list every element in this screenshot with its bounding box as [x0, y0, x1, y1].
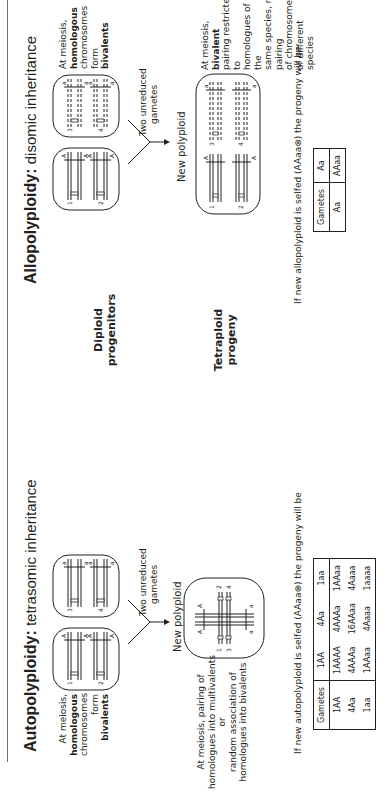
- svg-text:A: A: [108, 633, 115, 638]
- note-text: form: [90, 48, 100, 69]
- svg-text:4: 4: [225, 585, 232, 589]
- table-cell: 1aa: [360, 680, 376, 729]
- note-line-bold: homologous: [69, 3, 80, 69]
- svg-text:4: 4: [97, 608, 104, 612]
- auto-new-polyploid-label: New polyploid: [172, 581, 183, 652]
- allo-new-polyploid-label: New polyploid: [176, 111, 187, 182]
- svg-text:a: a: [60, 81, 67, 85]
- allo-parent-cell-aa: 34 aa aa: [53, 75, 119, 137]
- note-line: chromosomes: [79, 3, 90, 69]
- table-header-cell: Gametes: [314, 680, 330, 729]
- svg-text:3: 3: [66, 128, 73, 132]
- allo-gametes-label: Two unreduced gametes: [138, 68, 159, 136]
- allopolyploidy-title-rest: disomic inheritance: [22, 36, 39, 164]
- svg-text:a: a: [202, 84, 209, 88]
- table-cell: 4AAAa: [345, 640, 360, 680]
- table-cell: 4Aaaa: [360, 597, 376, 640]
- gametes-line: Two unreduced: [138, 68, 149, 136]
- allo-parent-cell-AA: 12 AA AA: [53, 148, 119, 210]
- svg-text:A: A: [60, 633, 67, 638]
- table-cell: 4Aa: [345, 680, 360, 729]
- allopolyploidy-parent-note: At meiosis, homologous chromosomes form …: [58, 3, 111, 69]
- svg-text:a: a: [108, 81, 115, 85]
- svg-text:A: A: [196, 629, 203, 634]
- note-line: pairing restricted to: [221, 0, 242, 70]
- table-header-cell: 1AA: [314, 640, 330, 680]
- label-line: progenitors: [105, 290, 118, 370]
- note-line: At meiosis, pairing of: [196, 652, 207, 792]
- parent-cell-AA: 1 2 AA AA: [53, 628, 119, 690]
- table-row: 4Aa 4AAAa 16AAaa 4Aaaa: [345, 559, 360, 730]
- svg-text:A: A: [60, 153, 67, 158]
- note-bold: bivalents: [100, 22, 110, 69]
- gametes-line: Two unreduced: [138, 548, 149, 616]
- table-cell: 1aaaa: [360, 559, 376, 598]
- svg-text:a: a: [86, 81, 93, 85]
- table-header-row: Gametes 1AA 4Aa 1aa: [314, 559, 330, 730]
- table-cell: 1AAAA: [330, 640, 346, 680]
- svg-text:1: 1: [66, 681, 73, 685]
- svg-text:A: A: [108, 153, 115, 158]
- table-row: 1AA 1AAAA 4AAAa 1AAaa: [330, 559, 346, 730]
- svg-text:1: 1: [66, 201, 73, 205]
- table-header-row: Gametes Aa: [314, 148, 330, 231]
- svg-text:1: 1: [208, 205, 215, 209]
- tetraploid-progeny-label: Tetraploid progeny: [212, 300, 238, 380]
- svg-text:A: A: [250, 155, 257, 160]
- svg-text:a: a: [108, 561, 115, 565]
- svg-text:A: A: [86, 153, 93, 158]
- table-cell: 16AAaa: [345, 597, 360, 640]
- parent-cell-aa: 3 4 aa aa: [53, 555, 119, 617]
- svg-text:4: 4: [97, 128, 104, 132]
- svg-text:A: A: [196, 603, 203, 608]
- autopolyploidy-offspring-note: At meiosis, pairing of homologues into m…: [196, 652, 249, 792]
- label-line: Tetraploid: [212, 300, 225, 380]
- table-cell: Aa: [330, 182, 346, 231]
- note-text: At meiosis,: [200, 21, 210, 70]
- svg-text:2: 2: [97, 201, 104, 205]
- svg-text:4: 4: [237, 142, 244, 146]
- table-cell: 1AAaa: [330, 559, 346, 598]
- autopolyploid-offspring-cell: AA aa 13 24: [184, 578, 264, 658]
- note-line: At meiosis,: [58, 3, 69, 69]
- autopolyploidy-selfing-caption: If new autopolyploid is selfed (AAaa⊗) t…: [293, 492, 303, 754]
- svg-text:a: a: [247, 604, 254, 608]
- svg-text:2: 2: [97, 681, 104, 685]
- svg-text:3: 3: [208, 142, 215, 146]
- label-line: progeny: [225, 300, 238, 380]
- allopolyploidy-punnett-table: Gametes Aa Aa AAaa: [313, 148, 346, 232]
- svg-text:A: A: [202, 155, 209, 160]
- gametes-line: gametes: [149, 68, 160, 136]
- table-cell: 4AAAa: [330, 597, 346, 640]
- label-line: Diploid: [92, 290, 105, 370]
- table-header-cell: 4Aa: [314, 597, 330, 640]
- table-header-cell: Aa: [314, 148, 330, 182]
- table-row: Aa AAaa: [330, 148, 346, 231]
- note-line: same species, no pairing: [263, 0, 284, 70]
- svg-text:2: 2: [237, 205, 244, 209]
- note-line: homologues into multivalents or: [207, 652, 228, 792]
- table-cell: 4Aaaa: [345, 559, 360, 598]
- diploid-progenitors-label: Diploid progenitors: [92, 290, 118, 370]
- table-cell: 1AA: [330, 680, 346, 729]
- svg-text:a: a: [86, 561, 93, 565]
- table-header-cell: Gametes: [314, 182, 330, 231]
- note-line: homologues into bivalents: [238, 652, 249, 792]
- svg-text:a: a: [250, 84, 257, 88]
- table-cell: AAaa: [330, 148, 346, 182]
- note-bold: bivalent: [211, 29, 221, 70]
- svg-text:3: 3: [66, 608, 73, 612]
- allopolyploidy-title: Allopolyploidy: disomic inheritance: [22, 36, 40, 284]
- svg-text:2: 2: [215, 585, 222, 589]
- allopolyploid-offspring-cell: 12 AA 34 aa: [196, 74, 260, 214]
- note-line: random association of: [228, 652, 239, 792]
- gametes-line: gametes: [149, 548, 160, 616]
- svg-text:a: a: [247, 630, 254, 634]
- auto-gametes-label: Two unreduced gametes: [138, 548, 159, 616]
- allopolyploidy-selfing-caption: If new allopolyploid is selfed (AAaa⊗) t…: [293, 46, 303, 304]
- table-header-cell: 1aa: [314, 559, 330, 598]
- svg-text:A: A: [86, 633, 93, 638]
- table-cell: 1AAaa: [360, 640, 376, 680]
- svg-text:a: a: [60, 561, 67, 565]
